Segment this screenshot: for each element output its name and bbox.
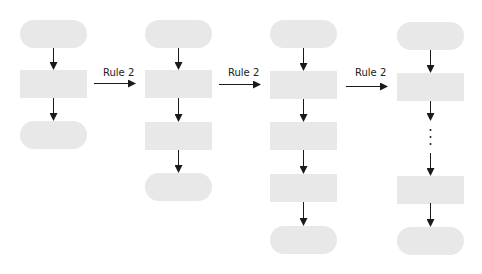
flowchart-diagram: Rule 2 Rule 2 Rule 2 — [0, 0, 482, 274]
ellipsis-dots — [430, 129, 432, 145]
arrows-layer — [0, 0, 482, 274]
